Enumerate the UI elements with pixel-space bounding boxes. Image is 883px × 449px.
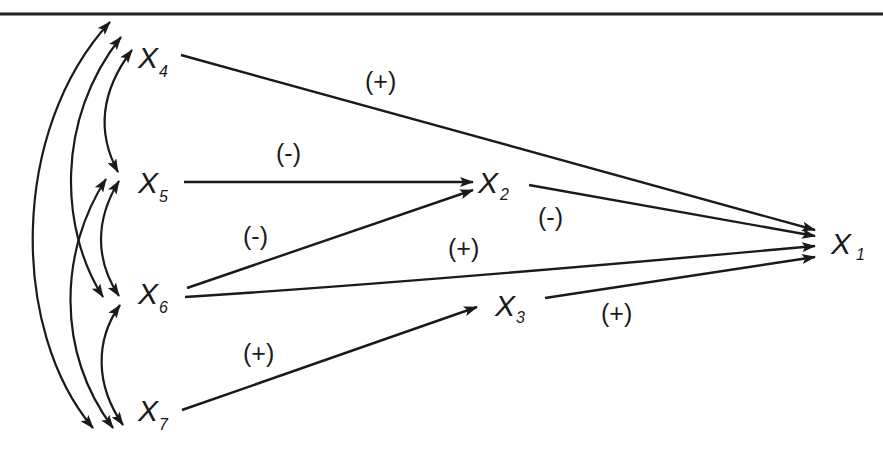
sign-x2-x1: (-): [538, 203, 563, 231]
node-x5: X 5: [137, 166, 168, 205]
sign-x3-x1: (+): [601, 299, 632, 327]
node-x7: X 7: [137, 394, 169, 433]
node-x6: X 6: [137, 277, 168, 316]
node-x2: X 2: [477, 166, 509, 203]
svg-text:X: X: [137, 166, 159, 199]
edge-x3-x1: [545, 257, 815, 298]
node-x4: X 4: [137, 41, 168, 80]
edge-x7-x3: [182, 307, 477, 410]
svg-text:X: X: [137, 41, 159, 74]
sign-x6-x2: (-): [243, 222, 268, 250]
svg-text:3: 3: [516, 309, 525, 326]
svg-text:5: 5: [159, 188, 168, 205]
svg-text:6: 6: [159, 299, 168, 316]
svg-text:X: X: [477, 166, 499, 199]
corr-x4-x5: [104, 50, 132, 172]
edge-x2-x1: [529, 185, 815, 236]
node-x1: X 1: [830, 227, 865, 263]
svg-text:2: 2: [499, 186, 509, 203]
svg-text:X: X: [137, 277, 159, 310]
svg-text:4: 4: [159, 63, 168, 80]
corr-x4-x6: [71, 37, 121, 297]
node-x3: X 3: [494, 289, 525, 326]
svg-text:1: 1: [856, 246, 865, 263]
sign-x4-x1: (+): [365, 67, 396, 95]
svg-text:7: 7: [159, 416, 169, 433]
corr-x5-x6: [101, 181, 119, 296]
svg-text:X: X: [494, 289, 516, 322]
sign-x5-x2: (-): [276, 139, 301, 167]
sign-x7-x3: (+): [243, 339, 274, 367]
corr-x4-x7: [33, 22, 110, 428]
svg-text:X: X: [137, 394, 159, 427]
edge-x6-x2: [187, 190, 473, 288]
svg-text:X: X: [830, 227, 852, 260]
path-diagram: X 4 X 5 X 6 X 7 X 2 X 3 X 1 (+) (-) (-) …: [0, 0, 883, 449]
sign-x6-x1: (+): [448, 234, 479, 262]
corr-x6-x7: [102, 305, 123, 425]
